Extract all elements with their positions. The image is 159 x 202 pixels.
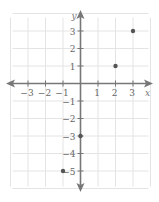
x-axis-label: x (145, 88, 150, 98)
data-point (61, 169, 65, 173)
y-tick-label: 1 (70, 62, 76, 72)
y-tick-label: 2 (70, 44, 76, 54)
coordinate-plane: −3−2−1123321−1−2−3−4−5 x y (0, 0, 159, 202)
x-tick-label: −3 (20, 88, 34, 98)
y-tick-label: 3 (70, 27, 76, 37)
y-tick-label: −3 (62, 132, 76, 142)
data-point (78, 134, 82, 138)
data-point (131, 29, 135, 33)
y-tick-label: −1 (62, 97, 75, 107)
y-axis-label: y (71, 11, 78, 21)
x-tick-label: 2 (112, 88, 118, 98)
y-tick-label: −4 (62, 149, 76, 159)
y-tick-label: −2 (62, 114, 75, 124)
data-point (113, 64, 117, 68)
x-tick-label: 1 (94, 88, 100, 98)
x-tick-label: 3 (129, 88, 135, 98)
x-tick-label: −2 (38, 88, 51, 98)
